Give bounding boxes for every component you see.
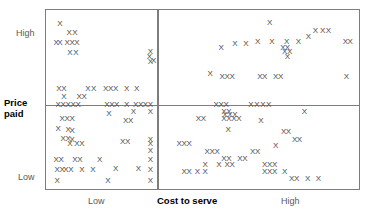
scatter-chart: Price paid High Low Low High Cost to ser…: [0, 0, 373, 221]
data-point: X: [203, 168, 208, 176]
data-point: X: [269, 38, 274, 46]
data-point: X: [229, 161, 234, 169]
data-point: X: [54, 177, 59, 185]
data-point: X: [57, 39, 62, 47]
x-axis-tick-high: High: [281, 196, 300, 206]
data-point: X: [67, 140, 72, 148]
data-point: X: [195, 168, 200, 176]
data-point: X: [225, 126, 230, 134]
data-point: X: [106, 110, 111, 118]
data-point: X: [113, 85, 118, 93]
data-point: X: [302, 108, 307, 116]
y-axis-tick-low: Low: [18, 172, 35, 182]
data-point: X: [79, 140, 84, 148]
data-point: X: [242, 155, 247, 163]
quadrant-divider-horizontal: [46, 105, 359, 106]
data-point: X: [236, 115, 241, 123]
data-point: X: [278, 73, 283, 81]
data-point: X: [148, 166, 153, 174]
data-point: X: [201, 115, 206, 123]
data-point: X: [151, 57, 156, 65]
data-point: X: [77, 156, 82, 164]
data-point: X: [282, 168, 287, 176]
data-point: X: [55, 125, 60, 133]
data-point: X: [305, 175, 310, 183]
data-point: X: [148, 147, 153, 155]
data-point: X: [75, 101, 80, 109]
data-point: X: [347, 38, 352, 46]
data-point: X: [57, 20, 62, 28]
data-point: X: [59, 156, 64, 164]
data-point: X: [266, 101, 271, 109]
x-axis-tick-low: Low: [88, 196, 105, 206]
data-point: X: [326, 27, 331, 35]
data-point: X: [125, 138, 130, 146]
data-point: X: [91, 85, 96, 93]
data-point: X: [260, 101, 265, 109]
data-point: X: [219, 44, 224, 52]
data-point: X: [214, 148, 219, 156]
data-point: X: [66, 29, 71, 37]
data-point: X: [148, 108, 153, 116]
data-point: X: [243, 40, 248, 48]
y-axis-title-line2: paid: [4, 108, 27, 119]
data-point: X: [105, 177, 110, 185]
data-point: X: [267, 19, 272, 27]
data-point: X: [148, 156, 153, 164]
data-point: X: [124, 85, 129, 93]
data-point: X: [320, 27, 325, 35]
data-point: X: [258, 117, 263, 125]
data-point: X: [90, 166, 95, 174]
data-point: X: [68, 166, 73, 174]
data-point: X: [216, 161, 221, 169]
data-point: X: [113, 165, 118, 173]
quadrant-divider-vertical: [157, 10, 158, 189]
plot-area: XXXXXXXXXXXXXXXXXXXXXXXXXXXXXXXXXXXXXXXX…: [45, 9, 360, 190]
y-axis-tick-high: High: [16, 28, 35, 38]
data-point: X: [136, 165, 141, 173]
data-point: X: [70, 115, 75, 123]
x-axis-title: Cost to serve: [157, 195, 217, 206]
data-point: X: [148, 177, 153, 185]
data-point: X: [67, 49, 72, 57]
data-point: X: [254, 101, 259, 109]
data-point: X: [79, 166, 84, 174]
data-point: X: [208, 70, 213, 78]
data-point: X: [272, 168, 277, 176]
data-point: X: [294, 175, 299, 183]
y-axis-title: Price paid: [4, 97, 27, 119]
data-point: X: [97, 156, 102, 164]
data-point: X: [74, 39, 79, 47]
data-point: X: [73, 49, 78, 57]
data-point: X: [255, 148, 260, 156]
data-point: X: [232, 40, 237, 48]
data-point: X: [316, 175, 321, 183]
data-point: X: [248, 101, 253, 109]
data-point: X: [344, 73, 349, 81]
data-point: X: [114, 101, 119, 109]
y-axis-title-line1: Price: [4, 97, 27, 108]
data-point: X: [262, 73, 267, 81]
data-point: X: [128, 117, 133, 125]
data-point: X: [229, 73, 234, 81]
data-point: X: [187, 168, 192, 176]
data-point: X: [313, 27, 318, 35]
data-point: X: [273, 142, 278, 150]
data-point: X: [286, 128, 291, 136]
data-point: X: [297, 136, 302, 144]
data-point: X: [72, 29, 77, 37]
data-point: X: [81, 93, 86, 101]
data-point: X: [187, 140, 192, 148]
data-point: X: [296, 38, 301, 46]
data-point: X: [134, 85, 139, 93]
data-point: X: [131, 108, 136, 116]
data-point: X: [255, 38, 260, 46]
data-point: X: [285, 53, 290, 61]
data-point: X: [306, 33, 311, 41]
data-point: X: [124, 101, 129, 109]
